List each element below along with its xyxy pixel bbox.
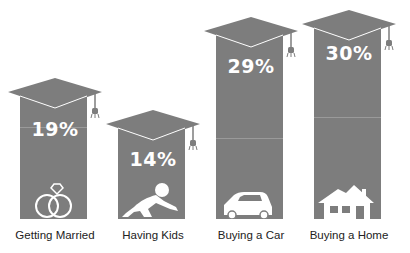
divider-line [216, 138, 283, 139]
value-label: 14% [104, 148, 202, 170]
value-label: 30% [300, 42, 398, 64]
car-icon [216, 179, 283, 219]
value-label: 19% [6, 118, 104, 140]
bar-getting-married: 19% Getting Married [6, 78, 104, 253]
value-label: 29% [202, 55, 300, 77]
graduation-cap-icon [6, 78, 104, 118]
crawling-baby-icon [118, 179, 185, 219]
category-label: Buying a Home [290, 229, 408, 241]
graduation-cap-icon [202, 17, 300, 57]
house-icon [314, 179, 381, 219]
bar-buying-a-car: 29% Buying a Car [202, 17, 300, 253]
bar-buying-a-home: 30% Buying a Home [300, 10, 398, 253]
divider-line [314, 117, 381, 118]
bar-having-kids: 14% Having Kids [104, 110, 202, 253]
rings-icon [20, 179, 87, 219]
graduation-cap-icon [104, 110, 202, 150]
